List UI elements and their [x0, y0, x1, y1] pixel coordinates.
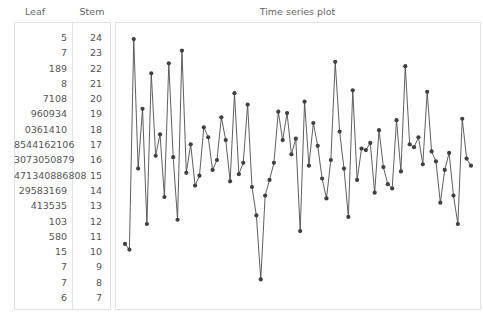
data-point [254, 213, 258, 217]
data-point [307, 164, 311, 168]
data-point [377, 128, 381, 132]
data-point [342, 166, 346, 170]
data-point [368, 141, 372, 145]
data-point [355, 178, 359, 182]
data-point [154, 154, 158, 158]
stem-cell: 14 [72, 183, 111, 198]
data-point [145, 222, 149, 226]
data-point [123, 242, 127, 246]
data-point [197, 174, 201, 178]
leaf-cell: 103 [14, 214, 72, 229]
data-point [403, 64, 407, 68]
leaf-cell: 15 [14, 244, 72, 259]
data-point [272, 161, 276, 165]
data-point [460, 117, 464, 121]
stem-cell: 20 [72, 91, 111, 106]
data-point [394, 118, 398, 122]
data-point [136, 166, 140, 170]
data-point [324, 196, 328, 200]
data-point [215, 158, 219, 162]
stem-cell: 24 [72, 30, 111, 45]
stem-cell: 7 [72, 290, 111, 305]
stem-cell: 11 [72, 229, 111, 244]
data-point [250, 185, 254, 189]
plot-title: Time series plot [115, 6, 480, 17]
time-series-chart [115, 22, 481, 310]
leaf-cell: 3073050879 [14, 152, 72, 167]
data-point [210, 168, 214, 172]
leaf-cell: 960934 [14, 106, 72, 121]
data-point [206, 135, 210, 139]
data-point [386, 182, 390, 186]
data-point [447, 151, 451, 155]
data-point [298, 229, 302, 233]
data-point [281, 138, 285, 142]
stem-cell: 12 [72, 214, 111, 229]
leaf-cell: 8544162106 [14, 137, 72, 152]
data-point [465, 156, 469, 160]
data-point [237, 172, 241, 176]
leaf-cell: 0361410 [14, 122, 72, 137]
data-point [267, 178, 271, 182]
data-point [158, 132, 162, 136]
data-point [140, 107, 144, 111]
data-point [228, 179, 232, 183]
data-point [285, 111, 289, 115]
data-point [219, 115, 223, 119]
leaf-value-column: 5718987108960934036141085441621063073050… [14, 22, 72, 310]
data-point [434, 159, 438, 163]
data-point [320, 176, 324, 180]
data-point [127, 248, 131, 252]
data-point [338, 129, 342, 133]
stem-cell: 16 [72, 152, 111, 167]
data-point [276, 110, 280, 114]
leaf-cell: 8 [14, 76, 72, 91]
data-point [333, 60, 337, 64]
data-point [241, 161, 245, 165]
leaf-cell: 29583169 [14, 183, 72, 198]
data-point [416, 135, 420, 139]
data-point [373, 191, 377, 195]
stem-value-column: 242322212019181716151413121110987 [72, 22, 111, 310]
stem-cell: 19 [72, 106, 111, 121]
data-point [469, 164, 473, 168]
stem-cell: 23 [72, 45, 111, 60]
data-point [425, 90, 429, 94]
stem-leaf-timeseries-figure: Leaf Stem Time series plot 5718987108960… [0, 0, 483, 317]
data-point [175, 218, 179, 222]
stem-cell: 17 [72, 137, 111, 152]
data-point [329, 158, 333, 162]
leaf-cell: 7 [14, 259, 72, 274]
data-point [316, 144, 320, 148]
leaf-cell: 6 [14, 290, 72, 305]
data-point [224, 138, 228, 142]
data-point [193, 184, 197, 188]
leaf-cell: 471340886808 [14, 168, 72, 183]
data-point [451, 193, 455, 197]
data-point [359, 147, 363, 151]
data-point [232, 91, 236, 95]
data-point [189, 142, 193, 146]
data-point [390, 186, 394, 190]
data-point [429, 149, 433, 153]
data-point [184, 171, 188, 175]
leaf-cell: 7108 [14, 91, 72, 106]
leaf-cell: 580 [14, 229, 72, 244]
data-point [263, 193, 267, 197]
leaf-column-header: Leaf [0, 6, 70, 17]
data-point [443, 168, 447, 172]
data-point [381, 165, 385, 169]
data-point [351, 88, 355, 92]
data-point [167, 61, 171, 65]
stem-cell: 22 [72, 61, 111, 76]
data-point [246, 102, 250, 106]
leaf-cell: 5 [14, 30, 72, 45]
stem-cell: 15 [72, 168, 111, 183]
data-point [302, 100, 306, 104]
stem-column-header: Stem [72, 6, 112, 17]
stem-cell: 9 [72, 259, 111, 274]
leaf-cell: 7 [14, 275, 72, 290]
data-point [438, 201, 442, 205]
data-point [294, 137, 298, 141]
data-point [408, 142, 412, 146]
